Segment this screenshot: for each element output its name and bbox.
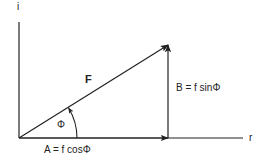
- vector-diagram: i r F Φ A = f cosΦ B = f sinΦ: [0, 0, 267, 164]
- horizontal-axis-label: r: [249, 133, 252, 143]
- component-b-label: B = f sinΦ: [176, 83, 220, 93]
- angle-arc: [69, 108, 77, 138]
- resultant-label: F: [85, 74, 92, 84]
- angle-label: Φ: [57, 120, 65, 130]
- resultant-f-arrow: [19, 45, 168, 138]
- component-a-label: A = f cosΦ: [44, 145, 91, 155]
- vertical-axis-label: i: [17, 2, 19, 12]
- vector-diagram-graphic: [0, 0, 267, 164]
